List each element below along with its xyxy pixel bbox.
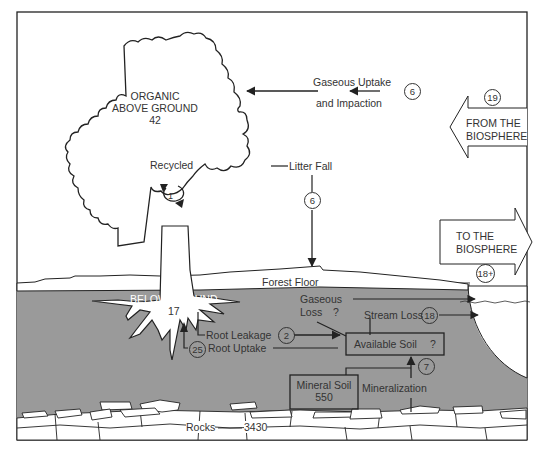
from-biosphere-label-1: FROM THE	[466, 117, 521, 129]
root-uptake-label: Root Uptake	[208, 342, 266, 354]
gaseous-loss-value: ?	[333, 306, 339, 318]
gaseous-uptake-label-2: and Impaction	[316, 97, 382, 109]
to-biosphere-value-badge: 18+	[476, 264, 495, 283]
root-leakage-label: Root Leakage	[206, 329, 271, 341]
root-uptake-value-badge: 25	[189, 341, 206, 358]
gaseous-loss-label-1: Gaseous	[300, 293, 342, 305]
gaseous-uptake-label-1: Gaseous Uptake	[313, 76, 391, 88]
mineralization-label: Mineralization	[362, 382, 427, 394]
available-soil-value: ?	[430, 338, 436, 350]
from-biosphere-label-2: BIOSPHERE	[466, 130, 527, 142]
organic-label-line2: ABOVE GROUND	[100, 102, 210, 114]
mineral-soil-value: 550	[290, 391, 358, 403]
below-ground-value: 17	[168, 305, 180, 317]
from-biosphere-value-badge: 19	[484, 89, 501, 106]
stream-loss-value-badge: 18	[421, 307, 438, 324]
forest-floor-label: Forest Floor	[262, 276, 319, 288]
gaseous-uptake-value-badge: 6	[404, 83, 421, 100]
to-biosphere-label-1: TO THE	[456, 230, 494, 242]
organic-above-ground-label: ORGANIC ABOVE GROUND 42	[100, 90, 210, 126]
recycled-value: 1	[168, 190, 173, 202]
to-biosphere-label-2: BIOSPHERE	[456, 243, 517, 255]
available-soil-label: Available Soil	[354, 338, 417, 350]
stream-loss-label: Stream Loss	[364, 309, 423, 321]
root-leakage-value-badge: 2	[278, 327, 295, 344]
below-ground-label: BELOW GROUND	[130, 293, 218, 305]
diagram-canvas	[0, 0, 545, 457]
recycled-label: Recycled	[150, 159, 193, 171]
mineralization-value-badge: 7	[418, 358, 435, 375]
mineral-soil-name: Mineral Soil	[290, 379, 358, 391]
rocks-label: Rocks	[186, 421, 215, 433]
organic-label-line1: ORGANIC	[100, 90, 210, 102]
litter-fall-value-badge: 6	[304, 192, 321, 209]
litter-fall-label: Litter Fall	[289, 160, 332, 172]
mineral-soil-label: Mineral Soil 550	[290, 379, 358, 403]
organic-value: 42	[100, 114, 210, 126]
rocks-value: 3430	[244, 421, 267, 433]
gaseous-loss-label-2: Loss	[300, 306, 322, 318]
